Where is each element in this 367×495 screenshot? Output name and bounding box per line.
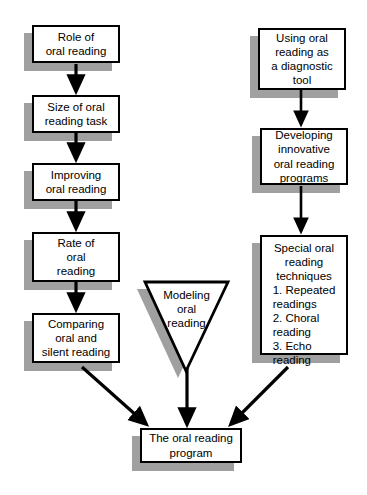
node-label: The oral reading program	[146, 431, 236, 459]
node-label: Modeling oral reading	[145, 288, 228, 330]
node-heading: Special oral reading techniques	[271, 241, 337, 283]
node-the-oral-reading-program[interactable]: The oral reading program	[140, 428, 242, 463]
node-modeling-oral-reading[interactable]: Modeling oral reading	[145, 282, 228, 371]
node-comparing-oral-and-silent-reading[interactable]: Comparing oral and silent reading	[32, 313, 120, 363]
node-label: Comparing oral and silent reading	[39, 317, 113, 359]
flowchart-diagram: Role of oral reading Size of oral readin…	[0, 0, 367, 495]
node-label: Developing innovative oral reading progr…	[271, 128, 338, 184]
node-improving-oral-reading[interactable]: Improving oral reading	[32, 163, 120, 201]
node-role-of-oral-reading[interactable]: Role of oral reading	[32, 25, 120, 63]
node-developing-innovative-oral-reading-programs[interactable]: Developing innovative oral reading progr…	[260, 128, 348, 185]
node-label: Rate of oral reading	[54, 236, 98, 278]
node-rate-of-oral-reading[interactable]: Rate of oral reading	[32, 232, 120, 282]
node-label: Size of oral reading task	[42, 100, 111, 128]
node-special-oral-reading-techniques[interactable]: Special oral reading techniques 1. Repea…	[260, 235, 348, 355]
node-label: Using oral reading as a diagnostic tool	[268, 31, 335, 87]
node-label: Role of oral reading	[43, 30, 110, 58]
node-using-oral-reading-as-diagnostic-tool[interactable]: Using oral reading as a diagnostic tool	[258, 28, 346, 90]
node-size-of-oral-reading-task[interactable]: Size of oral reading task	[32, 95, 120, 133]
node-technique-list: 1. Repeated readings 2. Choral reading 3…	[270, 283, 339, 367]
node-label: Improving oral reading	[43, 168, 110, 196]
